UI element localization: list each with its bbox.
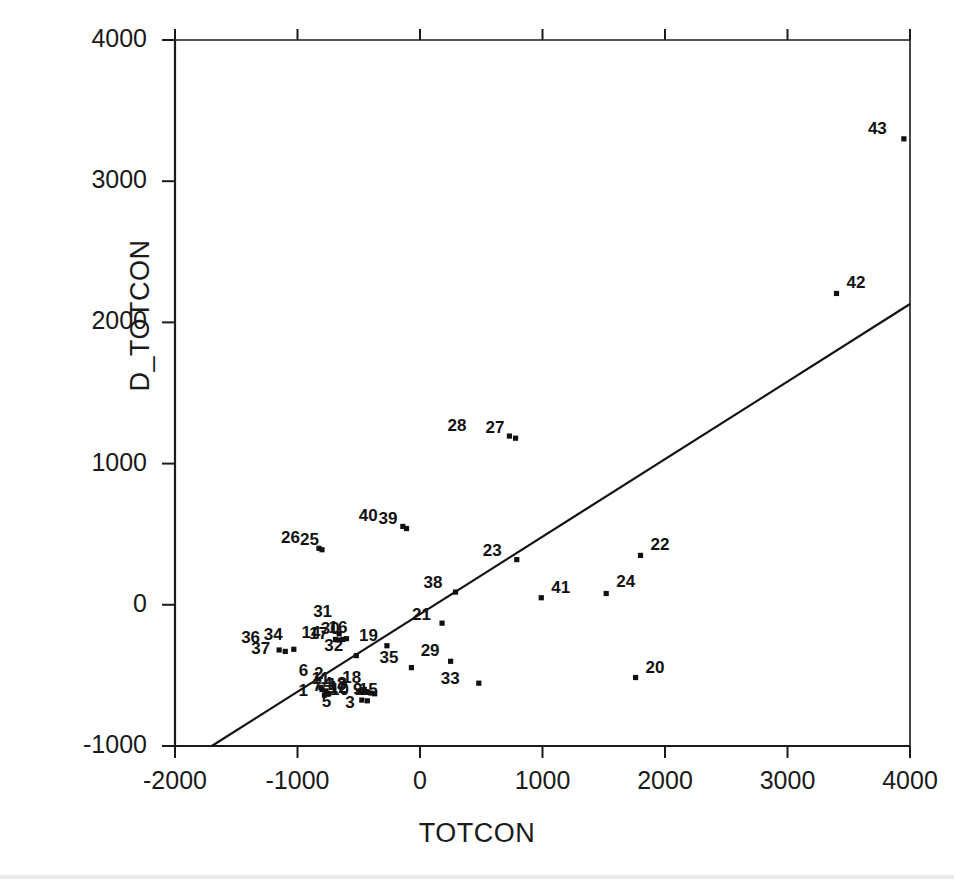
data-point[interactable] [604, 591, 609, 596]
data-point-label: 6 [299, 662, 308, 679]
data-point-label: 1 [298, 682, 307, 699]
x-axis-title: TOTCON [0, 818, 954, 849]
y-tick-label: 3000 [0, 165, 147, 194]
data-point[interactable] [638, 553, 643, 558]
x-tick-label: 2000 [595, 766, 735, 795]
data-point[interactable] [507, 433, 512, 438]
data-point[interactable] [834, 291, 839, 296]
scatter-plot-figure: D_TOTCON TOTCON -2000-100001000200030004… [0, 0, 954, 883]
data-point[interactable] [513, 436, 518, 441]
data-point-label: 37 [251, 640, 270, 657]
data-point-label: 15 [359, 681, 378, 698]
data-point-label: 24 [616, 573, 635, 590]
x-tick-label: 3000 [718, 766, 858, 795]
data-point[interactable] [291, 647, 296, 652]
y-tick-label: -1000 [0, 730, 147, 759]
data-point[interactable] [539, 595, 544, 600]
x-tick-label: -1000 [228, 766, 368, 795]
x-tick-label: -2000 [105, 766, 245, 795]
data-point-label: 29 [421, 642, 440, 659]
data-point-label: 30 [321, 620, 340, 637]
data-point[interactable] [448, 659, 453, 664]
data-point[interactable] [409, 665, 414, 670]
data-point-label: 38 [424, 574, 443, 591]
data-point-label: 32 [324, 637, 343, 654]
data-point-label: 33 [441, 670, 460, 687]
data-point[interactable] [453, 589, 458, 594]
data-point[interactable] [476, 681, 481, 686]
data-point-label: 41 [551, 579, 570, 596]
data-point-label: 19 [359, 627, 378, 644]
data-point-label: 26 [281, 529, 300, 546]
data-point-label: 20 [646, 659, 665, 676]
data-point-label: 22 [651, 536, 670, 553]
scan-edge-artifact [0, 875, 954, 879]
x-tick-label: 1000 [473, 766, 613, 795]
data-point-label: 31 [313, 603, 332, 620]
y-tick-label: 4000 [0, 24, 147, 53]
y-tick-label: 1000 [0, 448, 147, 477]
data-point[interactable] [633, 675, 638, 680]
data-point[interactable] [283, 649, 288, 654]
data-point-label: 28 [447, 417, 466, 434]
data-point-label: 40 [359, 507, 378, 524]
data-point-label: 39 [379, 510, 398, 527]
data-point[interactable] [514, 557, 519, 562]
data-point-label: 27 [486, 419, 505, 436]
x-tick-label: 4000 [840, 766, 954, 795]
data-point-label: 18 [342, 669, 361, 686]
data-point[interactable] [901, 136, 906, 141]
data-point[interactable] [439, 621, 444, 626]
data-point[interactable] [354, 653, 359, 658]
data-point[interactable] [400, 524, 405, 529]
data-point-label: 23 [483, 542, 502, 559]
y-tick-label: 2000 [0, 306, 147, 335]
y-tick-label: 0 [0, 589, 147, 618]
data-point[interactable] [277, 647, 282, 652]
data-point-label: 25 [300, 531, 319, 548]
data-point-label: 42 [847, 274, 866, 291]
x-tick-label: 0 [350, 766, 490, 795]
data-point-label: 21 [412, 606, 431, 623]
data-point[interactable] [365, 698, 370, 703]
data-point-label: 35 [379, 649, 398, 666]
data-point-label: 43 [868, 120, 887, 137]
